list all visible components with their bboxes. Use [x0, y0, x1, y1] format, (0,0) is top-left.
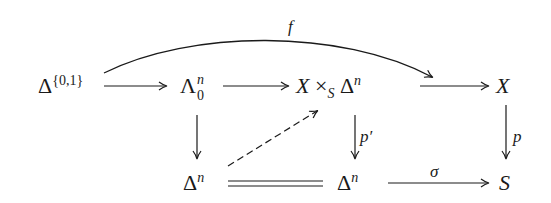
label-sigma: σ	[430, 163, 438, 180]
node-fiber-product: X ×S Δn	[296, 75, 361, 97]
node-delta-n-left: Δn	[183, 172, 204, 194]
node-delta-n-right: Δn	[337, 172, 358, 194]
node-S: S	[499, 172, 510, 194]
node-X: X	[496, 75, 509, 97]
label-p: p	[513, 128, 522, 145]
arrow-f-curve	[104, 40, 432, 77]
label-f: f	[288, 18, 293, 35]
node-delta-01: Δ{0,1}	[38, 75, 83, 97]
arrow-dashed-lift	[228, 111, 317, 166]
arrows-layer	[0, 0, 551, 203]
label-p-prime: p′	[360, 128, 372, 145]
node-horn: Λn0	[180, 75, 208, 97]
